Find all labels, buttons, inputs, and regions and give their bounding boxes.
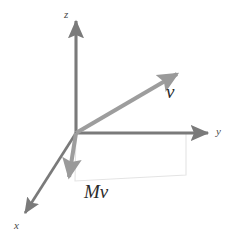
vector-transform-diagram: z y x v⃗ Mv⃗ — [0, 0, 238, 246]
x-axis-label: x — [14, 220, 19, 231]
xy-plane-outline — [75, 133, 186, 181]
diagram-canvas — [0, 0, 238, 246]
z-axis-label: z — [64, 9, 68, 20]
vector-v-label: v⃗ — [166, 82, 189, 101]
y-axis-label: y — [216, 126, 221, 137]
vector-v-arrow — [76, 74, 177, 133]
vector-mv-label: Mv⃗ — [84, 182, 123, 201]
